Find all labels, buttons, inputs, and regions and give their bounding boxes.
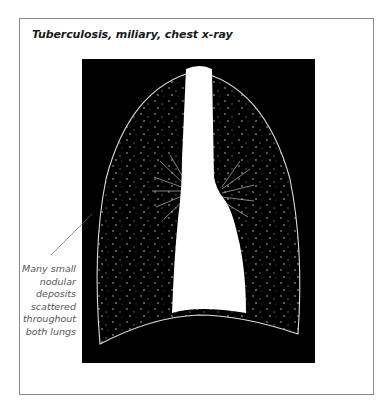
annotation-leader-line	[0, 0, 391, 411]
annotation-line: nodular	[20, 276, 76, 289]
annotation-line: throughout	[20, 313, 76, 326]
annotation-label: Many small nodular deposits scattered th…	[20, 263, 76, 338]
annotation-line: both lungs	[20, 326, 76, 339]
annotation-line: scattered	[20, 301, 76, 314]
annotation-line: Many small	[20, 263, 76, 276]
annotation-line: deposits	[20, 288, 76, 301]
